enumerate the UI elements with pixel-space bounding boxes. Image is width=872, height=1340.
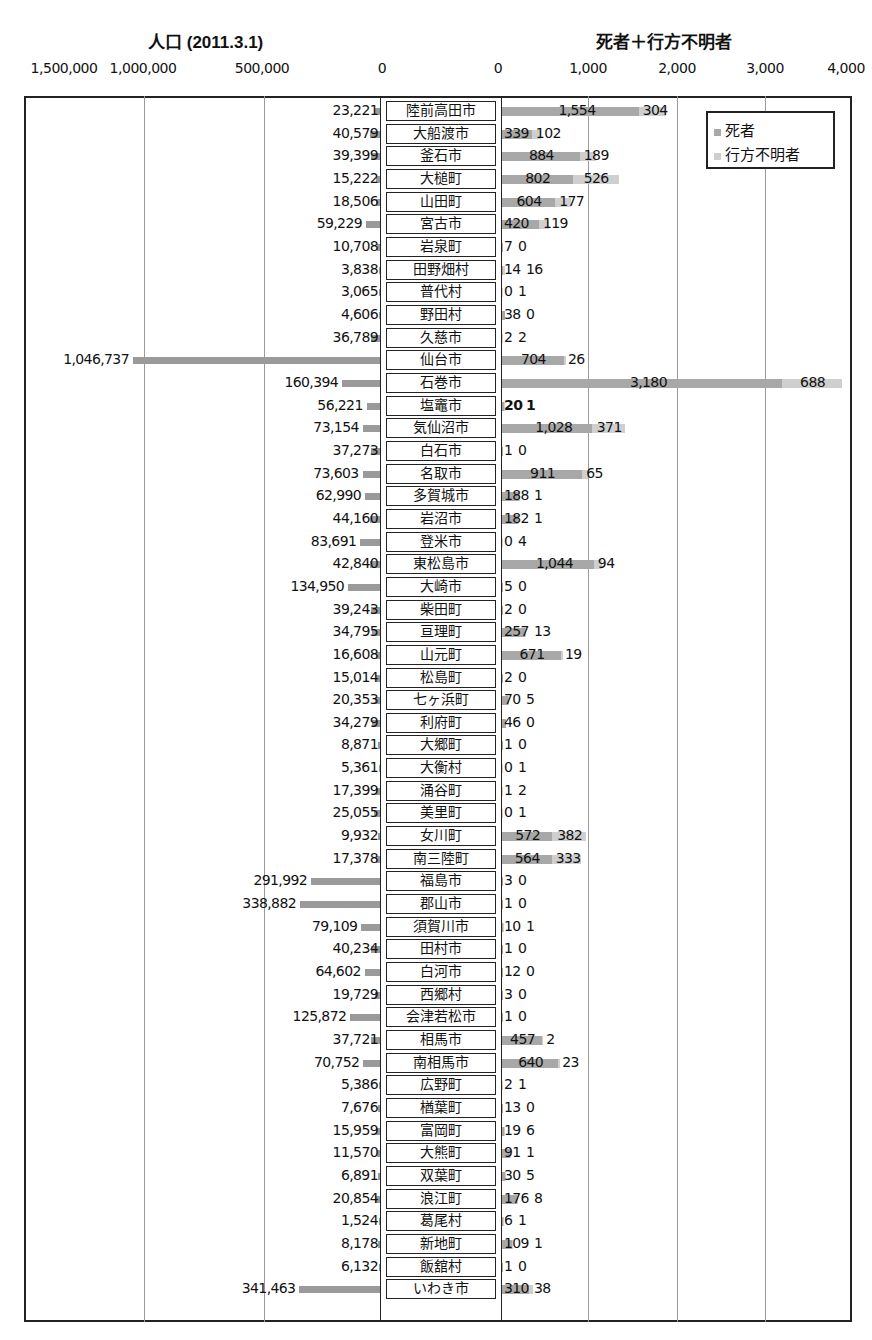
population-label: 40,579	[333, 125, 378, 141]
chart-row: 18,506山田町604177	[0, 192, 872, 212]
population-bar	[378, 1241, 380, 1248]
population-label: 8,178	[341, 1235, 378, 1251]
dead-value-label: 420	[504, 215, 529, 231]
municipality-name: 須賀川市	[386, 917, 496, 937]
dead-value-label: 0	[504, 283, 512, 299]
population-label: 20,854	[333, 1190, 378, 1206]
population-label: 1,524	[341, 1212, 378, 1228]
population-label: 25,055	[333, 804, 378, 820]
dead-bar	[502, 243, 503, 252]
population-label: 134,950	[290, 578, 344, 594]
dead-value-label: 14	[504, 261, 521, 277]
dead-value-label: 2	[504, 1076, 512, 1092]
missing-value-label: 65	[586, 465, 603, 481]
missing-bar	[561, 651, 563, 660]
left-panel-title: 人口 (2011.3.1)	[148, 28, 263, 53]
chart-row: 5,361大衡村01	[0, 758, 872, 778]
population-label: 6,891	[341, 1167, 378, 1183]
municipality-name: 亘理町	[386, 622, 496, 642]
chart-row: 59,229宮古市420119	[0, 214, 872, 234]
missing-value-label: 1	[534, 487, 542, 503]
dead-value-label: 1	[504, 1258, 512, 1274]
chart-row: 42,840東松島市1,04494	[0, 554, 872, 574]
population-label: 83,691	[311, 533, 356, 549]
population-bar	[311, 878, 380, 885]
missing-value-label: 119	[543, 215, 568, 231]
municipality-name: 白河市	[386, 962, 496, 982]
municipality-name: 涌谷町	[386, 781, 496, 801]
population-bar	[365, 969, 380, 976]
population-label: 23,221	[333, 102, 378, 118]
municipality-name: 多賀城市	[386, 486, 496, 506]
dead-value-label: 19	[504, 1122, 521, 1138]
missing-value-label: 94	[598, 555, 615, 571]
municipality-name: 富岡町	[386, 1121, 496, 1141]
dead-value-label: 38	[504, 306, 521, 322]
population-label: 17,399	[333, 782, 378, 798]
left-tick-0: 0	[378, 60, 386, 76]
municipality-name: 大衡村	[386, 758, 496, 778]
legend-missing-label: 行方不明者	[725, 146, 800, 163]
dead-value-label: 884	[529, 147, 554, 163]
population-label: 73,603	[313, 465, 358, 481]
dead-value-label: 671	[520, 646, 545, 662]
dead-value-label: 13	[504, 1099, 521, 1115]
missing-bar	[529, 1285, 532, 1294]
chart-row: 70,752南相馬市64023	[0, 1053, 872, 1073]
right-panel-title: 死者＋行方不明者	[596, 28, 732, 53]
population-label: 19,729	[333, 986, 378, 1002]
missing-value-label: 0	[518, 442, 526, 458]
dead-value-label: 20	[504, 397, 522, 413]
municipality-name: 久慈市	[386, 328, 496, 348]
chart-row: 17,399涌谷町12	[0, 781, 872, 801]
dead-value-label: 604	[517, 193, 542, 209]
chart-row: 19,729西郷村30	[0, 985, 872, 1005]
municipality-name: 大槌町	[386, 169, 496, 189]
chart-row: 7,676楢葉町130	[0, 1098, 872, 1118]
dead-value-label: 188	[504, 487, 529, 503]
chart-row: 8,871大郷町10	[0, 735, 872, 755]
population-label: 40,234	[333, 940, 378, 956]
chart-row: 125,872会津若松市10	[0, 1007, 872, 1027]
municipality-name: 楢葉町	[386, 1098, 496, 1118]
population-label: 9,932	[341, 827, 378, 843]
chart-row: 62,990多賀城市1881	[0, 486, 872, 506]
missing-value-label: 0	[526, 306, 534, 322]
missing-value-label: 13	[534, 623, 551, 639]
population-label: 70,752	[314, 1054, 359, 1070]
municipality-name: 岩沼市	[386, 509, 496, 529]
legend: 死者 行方不明者	[706, 111, 835, 169]
missing-value-label: 1	[534, 510, 542, 526]
missing-swatch-icon	[714, 153, 721, 160]
missing-value-label: 0	[518, 895, 526, 911]
population-label: 34,279	[333, 714, 378, 730]
missing-value-label: 0	[518, 872, 526, 888]
chart-row: 134,950大崎市50	[0, 577, 872, 597]
population-label: 291,992	[253, 872, 307, 888]
dead-value-label: 1,044	[536, 555, 573, 571]
population-label: 15,222	[333, 170, 378, 186]
dead-value-label: 339	[504, 125, 529, 141]
chart-row: 15,222大槌町802526	[0, 169, 872, 189]
dead-value-label: 802	[525, 170, 550, 186]
municipality-name: 田村市	[386, 939, 496, 959]
chart-row: 40,234田村市10	[0, 939, 872, 959]
municipality-name: 七ヶ浜町	[386, 690, 496, 710]
dead-value-label: 10	[504, 918, 521, 934]
population-bar	[379, 267, 381, 274]
municipality-name: 山田町	[386, 192, 496, 212]
chart-row: 36,789久慈市22	[0, 328, 872, 348]
population-label: 42,840	[333, 555, 378, 571]
population-bar	[133, 357, 380, 364]
municipality-name: 双葉町	[386, 1166, 496, 1186]
missing-value-label: 4	[518, 533, 526, 549]
missing-value-label: 371	[597, 419, 622, 435]
municipality-name: 南三陸町	[386, 849, 496, 869]
chart-row: 79,109須賀川市101	[0, 917, 872, 937]
municipality-name: 田野畑村	[386, 260, 496, 280]
left-tick-500000: 500,000	[235, 60, 289, 76]
missing-value-label: 1	[518, 1212, 526, 1228]
municipality-name: 山元町	[386, 645, 496, 665]
dead-value-label: 70	[504, 691, 521, 707]
right-tick-3000: 3,000	[746, 60, 784, 76]
